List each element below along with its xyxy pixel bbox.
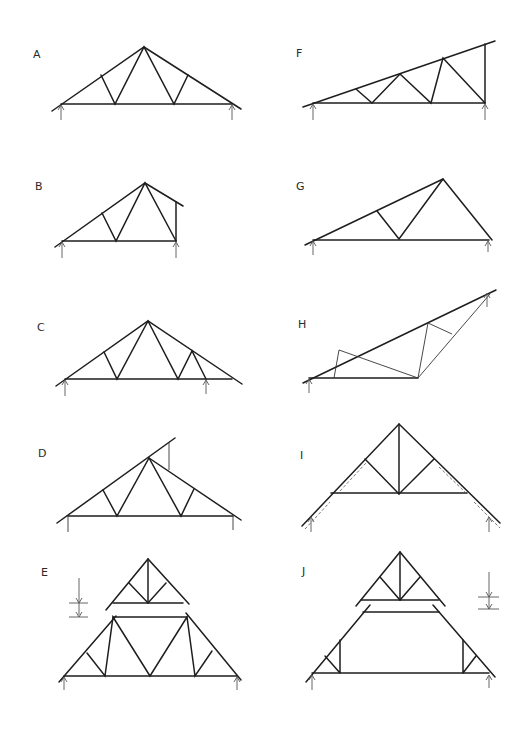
truss-E-cap bbox=[106, 559, 189, 610]
truss-C-members bbox=[56, 321, 242, 386]
truss-H-members bbox=[303, 290, 496, 383]
label-G: G bbox=[296, 180, 305, 193]
label-C: C bbox=[37, 321, 45, 334]
support-post-icon bbox=[68, 516, 233, 532]
label-I: I bbox=[300, 449, 303, 462]
truss-H: H bbox=[298, 290, 496, 393]
truss-J-base bbox=[306, 605, 495, 682]
truss-F-members bbox=[303, 41, 495, 107]
truss-diagram-canvas: A F B bbox=[0, 0, 520, 736]
truss-D: D bbox=[38, 438, 241, 532]
truss-A: A bbox=[33, 47, 241, 120]
truss-I-members bbox=[302, 424, 500, 529]
label-A: A bbox=[33, 48, 41, 61]
support-arrow-icon bbox=[62, 380, 209, 396]
label-E: E bbox=[41, 566, 48, 579]
truss-F: F bbox=[296, 41, 495, 120]
support-arrow-icon bbox=[309, 675, 492, 690]
truss-E: E bbox=[41, 559, 241, 690]
truss-J-cap bbox=[356, 552, 445, 606]
support-arrow-icon bbox=[308, 517, 492, 532]
label-B: B bbox=[35, 180, 43, 193]
truss-J: J bbox=[301, 552, 499, 690]
truss-C: C bbox=[37, 321, 242, 396]
truss-A-members bbox=[52, 47, 241, 111]
support-arrow-icon bbox=[58, 105, 235, 120]
support-arrow-icon bbox=[61, 677, 240, 690]
label-J: J bbox=[301, 565, 305, 578]
truss-B: B bbox=[35, 180, 183, 258]
support-arrow-icon bbox=[59, 242, 179, 258]
truss-G-members bbox=[305, 179, 492, 245]
dimension-marker-icon bbox=[69, 578, 88, 617]
support-arrow-icon bbox=[310, 241, 491, 255]
truss-E-base bbox=[59, 613, 241, 682]
dimension-marker-icon bbox=[478, 572, 499, 609]
truss-D-members bbox=[57, 438, 241, 523]
truss-B-members bbox=[55, 183, 183, 247]
truss-G: G bbox=[296, 179, 492, 255]
support-arrow-icon bbox=[310, 104, 488, 120]
label-F: F bbox=[296, 47, 302, 60]
label-H: H bbox=[298, 318, 306, 331]
truss-I: I bbox=[300, 424, 500, 532]
label-D: D bbox=[38, 447, 46, 460]
